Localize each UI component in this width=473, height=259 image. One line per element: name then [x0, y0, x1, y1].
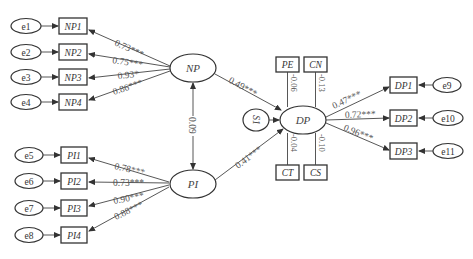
error-e2: e2 — [11, 45, 58, 60]
svg-text:e6: e6 — [25, 177, 34, 187]
error-e9: e9 — [419, 78, 461, 93]
loading-pi2: 0.73*** — [113, 178, 144, 188]
svg-text:DP2: DP2 — [394, 114, 413, 124]
indicator-np1: NP1 — [59, 18, 87, 34]
svg-text:NP: NP — [185, 62, 200, 74]
error-e11: e11 — [419, 144, 463, 159]
svg-text:-0.10: -0.10 — [317, 134, 327, 152]
svg-text:NP4: NP4 — [64, 98, 82, 108]
np-indicator-group: e1 e2 e3 e4 NP1 NP2 NP3 — [11, 18, 170, 110]
svg-text:0.49***: 0.49*** — [227, 75, 259, 99]
svg-text:e5: e5 — [25, 151, 34, 161]
svg-text:PI1: PI1 — [66, 151, 81, 161]
svg-text:e8: e8 — [25, 231, 34, 241]
control-pe: PE -0.06 — [276, 57, 299, 107]
svg-text:NP1: NP1 — [64, 22, 82, 32]
svg-text:DP1: DP1 — [394, 81, 412, 91]
svg-text:0.41***: 0.41*** — [233, 144, 264, 171]
path-pi-dp: 0.41*** — [215, 129, 283, 180]
error-e6: e6 — [15, 174, 60, 189]
path-np-dp: 0.49*** — [215, 74, 281, 110]
control-cn: CN -0.13 — [304, 57, 327, 107]
svg-text:PI2: PI2 — [66, 177, 81, 187]
svg-text:DP3: DP3 — [394, 147, 413, 157]
svg-text:e3: e3 — [22, 73, 31, 83]
control-cs: CS -0.10 — [304, 133, 327, 180]
latent-dp: DP — [280, 106, 326, 134]
dp-indicator-group: 0.47*** 0.72*** 0.96*** DP1 DP2 DP3 e9 e… — [326, 77, 463, 159]
control-ct: CT -0.04 — [276, 133, 299, 180]
svg-text:-0.06: -0.06 — [289, 74, 299, 92]
indicator-dp2: DP2 — [390, 110, 417, 126]
svg-text:DP: DP — [295, 114, 311, 126]
indicator-np3: NP3 — [59, 69, 87, 85]
loading-dp3: 0.96*** — [342, 123, 375, 144]
svg-text:e10: e10 — [441, 114, 455, 124]
svg-text:e1: e1 — [22, 22, 31, 32]
svg-text:e9: e9 — [443, 81, 452, 91]
error-e4: e4 — [11, 95, 58, 110]
indicator-pi3: PI3 — [61, 200, 87, 216]
indicator-pi1: PI1 — [61, 147, 87, 163]
error-e7: e7 — [15, 201, 60, 216]
latent-np: NP — [170, 54, 216, 82]
indicator-np2: NP2 — [59, 44, 87, 60]
error-e8: e8 — [15, 228, 60, 243]
loading-pi1: 0.78*** — [114, 161, 147, 177]
latent-s1: S1 — [243, 109, 279, 131]
svg-text:e4: e4 — [22, 98, 31, 108]
svg-text:-0.04: -0.04 — [289, 134, 299, 152]
covariance-np-pi: 0.09 — [187, 83, 197, 169]
svg-text:0.09: 0.09 — [187, 117, 197, 134]
error-e5: e5 — [15, 148, 60, 163]
svg-text:NP3: NP3 — [64, 73, 82, 83]
svg-text:e2: e2 — [22, 48, 31, 58]
svg-text:S1: S1 — [251, 115, 261, 125]
svg-text:e7: e7 — [25, 204, 34, 214]
svg-text:-0.13: -0.13 — [317, 74, 327, 92]
error-e10: e10 — [419, 111, 463, 126]
svg-text:PI4: PI4 — [66, 231, 81, 241]
indicator-dp3: DP3 — [390, 143, 417, 159]
sem-path-diagram: e1 e2 e3 e4 NP1 NP2 NP3 — [0, 0, 473, 259]
svg-text:PI: PI — [187, 178, 200, 190]
latent-pi: PI — [170, 170, 216, 198]
svg-text:e11: e11 — [441, 147, 455, 157]
svg-text:CS: CS — [310, 168, 321, 178]
pi-indicator-group: e5 e6 e7 e8 PI1 PI2 PI3 — [15, 147, 169, 243]
indicator-pi2: PI2 — [61, 173, 87, 189]
svg-text:NP2: NP2 — [64, 48, 82, 58]
indicator-dp1: DP1 — [390, 77, 417, 93]
svg-text:CT: CT — [282, 168, 294, 178]
svg-text:PI3: PI3 — [66, 204, 81, 214]
loading-np4: 0.86*** — [111, 77, 144, 97]
indicator-np4: NP4 — [59, 94, 87, 110]
error-e3: e3 — [11, 70, 58, 85]
svg-text:PE: PE — [281, 60, 294, 70]
indicator-pi4: PI4 — [61, 227, 87, 243]
error-e1: e1 — [11, 19, 58, 34]
loading-dp2: 0.72*** — [345, 109, 376, 120]
svg-text:CN: CN — [309, 60, 322, 70]
